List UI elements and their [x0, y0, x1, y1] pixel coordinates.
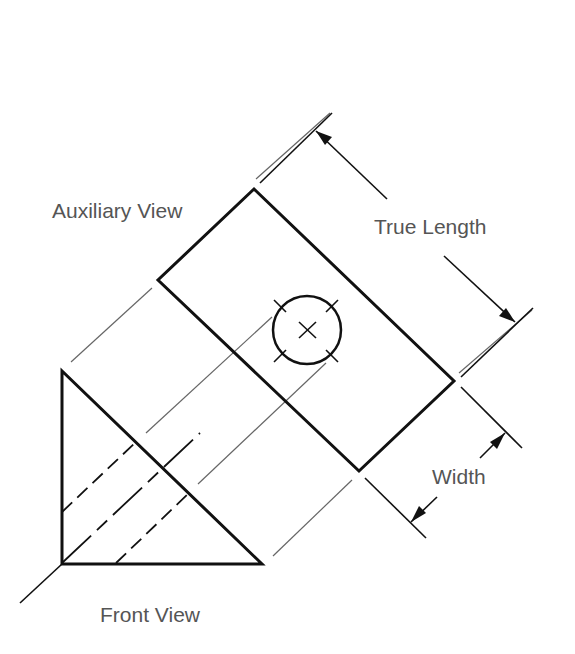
reference-line — [20, 564, 62, 603]
hole-circle — [273, 296, 341, 364]
auxiliary-view-label: Auxiliary View — [52, 199, 182, 223]
width-label: Width — [432, 465, 486, 489]
hidden-lines — [62, 433, 200, 563]
front-view-triangle — [62, 371, 262, 564]
true-length-dimension — [260, 113, 533, 377]
width-dimension — [365, 387, 522, 538]
true-length-label: True Length — [374, 215, 486, 239]
front-view-label: Front View — [100, 603, 200, 627]
auxiliary-view-diagram — [0, 0, 575, 654]
